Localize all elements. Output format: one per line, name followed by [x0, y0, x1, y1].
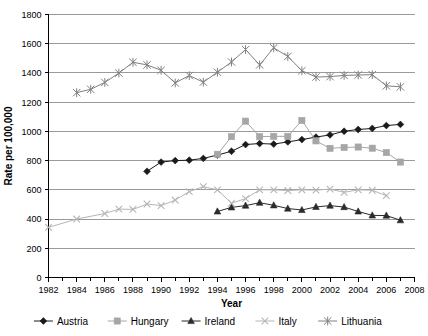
x-tick-label: 2002	[320, 285, 340, 295]
data-point-marker	[186, 157, 193, 164]
data-point-marker	[188, 317, 195, 323]
legend-label: Hungary	[131, 316, 169, 327]
data-point-marker	[284, 52, 291, 61]
data-point-marker	[383, 149, 389, 155]
legend-item-italy[interactable]: Italy	[255, 316, 296, 327]
x-axis	[49, 278, 415, 282]
y-axis	[45, 15, 49, 278]
data-point-marker	[298, 136, 305, 143]
x-tick-label: 1994	[207, 285, 227, 295]
data-point-marker	[313, 138, 319, 144]
y-tick-label: 400	[26, 214, 41, 224]
data-point-marker	[256, 61, 263, 70]
chart-legend: AustriaHungaryIrelandItalyLithuania	[34, 316, 382, 327]
data-point-marker	[157, 66, 164, 75]
data-point-marker	[383, 122, 390, 129]
data-point-marker	[228, 58, 235, 67]
series-hungary	[214, 117, 403, 165]
data-point-marker	[144, 168, 151, 175]
data-point-marker	[214, 68, 221, 77]
data-point-marker	[383, 192, 390, 199]
y-tick-labels: 020040060080010001200140016001800	[21, 10, 41, 283]
x-tick-label: 1988	[123, 285, 143, 295]
data-point-marker	[73, 88, 80, 97]
data-point-marker	[242, 141, 249, 148]
data-point-marker	[270, 141, 277, 148]
x-tick-label: 1984	[67, 285, 87, 295]
line-chart: 020040060080010001200140016001800 198219…	[0, 0, 428, 336]
data-point-marker	[214, 151, 220, 157]
data-point-marker	[341, 144, 347, 150]
data-point-marker	[327, 131, 334, 138]
data-point-marker	[172, 157, 179, 164]
x-tick-label: 2008	[404, 285, 424, 295]
legend-item-ireland[interactable]: Ireland	[182, 316, 236, 327]
series-line	[49, 187, 387, 228]
x-tick-label: 1990	[151, 285, 171, 295]
y-tick-label: 0	[36, 273, 41, 283]
y-tick-label: 600	[26, 185, 41, 195]
legend-item-lithuania[interactable]: Lithuania	[318, 316, 382, 327]
data-point-marker	[228, 134, 234, 140]
data-point-marker	[186, 188, 193, 195]
data-point-marker	[186, 71, 193, 80]
data-point-marker	[257, 134, 263, 140]
y-tick-label: 1400	[21, 68, 41, 78]
data-point-marker	[341, 128, 348, 135]
data-point-marker	[369, 125, 376, 132]
data-point-marker	[285, 133, 291, 139]
data-point-marker	[101, 78, 108, 87]
x-tick-label: 2004	[348, 285, 368, 295]
x-tick-label: 2000	[292, 285, 312, 295]
legend-label: Lithuania	[341, 316, 382, 327]
x-axis-title: Year	[221, 298, 242, 309]
series-line	[77, 48, 401, 93]
data-point-marker	[327, 145, 333, 151]
y-axis-title: Rate per 100,000	[3, 106, 14, 185]
data-point-marker	[242, 118, 248, 124]
legend-item-austria[interactable]: Austria	[34, 316, 89, 327]
data-point-marker	[114, 318, 120, 324]
data-point-marker	[327, 202, 334, 208]
data-point-marker	[171, 79, 178, 88]
x-tick-label: 1982	[38, 285, 58, 295]
data-point-marker	[242, 45, 249, 54]
legend-label: Austria	[57, 316, 89, 327]
data-point-marker	[271, 133, 277, 139]
data-point-marker	[228, 148, 235, 155]
y-tick-label: 800	[26, 156, 41, 166]
data-point-marker	[355, 144, 361, 150]
x-tick-label: 1996	[236, 285, 256, 295]
data-series-group	[45, 43, 404, 230]
data-point-marker	[200, 183, 207, 190]
y-tick-label: 1600	[21, 39, 41, 49]
data-point-marker	[200, 78, 207, 87]
y-tick-label: 1000	[21, 127, 41, 137]
y-tick-label: 1800	[21, 10, 41, 20]
data-point-marker	[397, 121, 404, 128]
data-point-marker	[270, 43, 277, 52]
data-point-marker	[40, 318, 47, 325]
x-tick-labels: 1982198419861988199019921994199619982000…	[38, 285, 424, 295]
y-tick-label: 200	[26, 244, 41, 254]
data-point-marker	[242, 195, 249, 202]
x-tick-label: 2006	[376, 285, 396, 295]
legend-label: Italy	[278, 316, 296, 327]
series-lithuania	[73, 43, 404, 97]
legend-item-hungary[interactable]: Hungary	[108, 316, 169, 327]
data-point-marker	[299, 117, 305, 123]
x-tick-label: 1998	[264, 285, 284, 295]
data-point-marker	[397, 159, 403, 165]
x-tick-label: 1992	[179, 285, 199, 295]
data-point-marker	[87, 85, 94, 94]
data-point-marker	[172, 197, 179, 204]
legend-label: Ireland	[205, 316, 236, 327]
chart-container: 020040060080010001200140016001800 198219…	[0, 0, 428, 336]
data-point-marker	[298, 66, 305, 75]
data-point-marker	[158, 159, 165, 166]
y-tick-label: 1200	[21, 98, 41, 108]
series-italy	[45, 183, 389, 230]
data-point-marker	[369, 145, 375, 151]
x-tick-label: 1986	[95, 285, 115, 295]
data-point-marker	[256, 199, 263, 205]
